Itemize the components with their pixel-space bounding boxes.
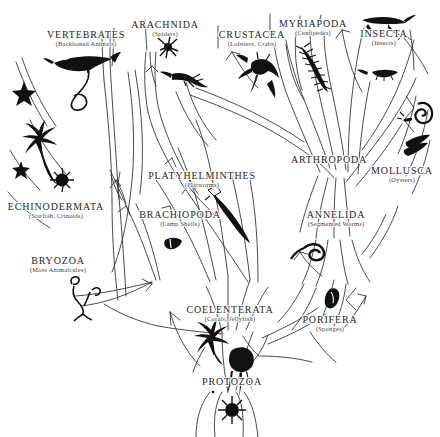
taxon-name-crustacea: CRUSTACEA [219,30,285,40]
taxon-label-brachiopoda[interactable]: BRACHIOPODA (Lamp Shells) [139,210,221,227]
bryozoan-icon [71,277,100,321]
scorpion-icon [160,72,208,88]
taxon-name-platyhelminthes: PLATYHELMINTHES [148,171,256,181]
taxon-name-bryozoa: BRYOZOA [30,256,86,266]
taxon-common-echinodermata: (Starfish, Crinoids) [8,213,104,219]
taxon-common-platyhelminthes: (Flatworms) [148,182,256,188]
taxon-common-insecta: (Insects) [360,40,407,46]
centipede-icon [296,43,331,92]
sea-urchin-icon [50,168,74,192]
protozoan-dot-icon [212,391,215,394]
taxon-common-annelida: (Segmented Worms) [307,221,365,227]
taxon-common-mollusca: (Oysters) [371,177,433,183]
taxon-label-arthropoda[interactable]: ARTHROPODA [291,155,367,166]
taxon-common-brachiopoda: (Lamp Shells) [139,221,221,227]
taxon-name-annelida: ANNELIDA [307,210,365,220]
taxon-label-echinodermata[interactable]: ECHINODERMATA (Starfish, Crinoids) [8,202,104,219]
taxon-label-crustacea[interactable]: CRUSTACEA (Lobsters, Crabs) [219,30,285,47]
taxon-common-myriapoda: (Centipedes) [279,30,347,36]
taxon-name-porifera: PORIFERA [302,315,357,325]
taxon-name-myriapoda: MYRIAPODA [279,19,347,29]
branch-root-right [244,392,258,437]
taxon-label-vertebrates[interactable]: VERTEBRATES (Backboned Animals) [47,30,125,47]
taxon-common-vertebrates: (Backboned Animals) [47,41,125,47]
taxon-name-arachnida: ARACHNIDA [131,20,199,30]
taxon-label-porifera[interactable]: PORIFERA (Sponges) [302,315,357,332]
sponge-icon [325,288,340,308]
branch-root-left [196,392,210,437]
branch-bryozoa [76,282,152,296]
taxon-name-protozoa: PROTOZOA [202,377,262,387]
fish-icon [43,52,121,71]
taxon-label-insecta[interactable]: INSECTA (Insects) [360,29,407,46]
ant-icon [357,70,398,81]
bivalve-icon [404,135,430,156]
branch-vertebrates [112,200,118,300]
taxon-name-arthropoda: ARTHROPODA [291,155,367,165]
taxon-common-crustacea: (Lobsters, Crabs) [219,41,285,47]
taxon-label-mollusca[interactable]: MOLLUSCA (Oysters) [371,166,433,183]
taxon-common-coelenterata: (Corals, Jellyfish) [186,316,273,322]
taxon-label-bryozoa[interactable]: BRYOZOA (Moss Animalcules) [30,256,86,273]
lamp-shell-icon [164,238,182,249]
taxon-label-arachnida[interactable]: ARACHNIDA (Spiders) [131,20,199,37]
taxon-label-annelida[interactable]: ANNELIDA (Segmented Worms) [307,210,365,227]
taxon-label-platyhelminthes[interactable]: PLATYHELMINTHES (Flatworms) [148,171,256,188]
taxon-common-arachnida: (Spiders) [131,31,199,37]
taxon-label-myriapoda[interactable]: MYRIAPODA (Centipedes) [279,19,347,36]
branch-arachnida [148,112,248,282]
taxon-name-echinodermata: ECHINODERMATA [8,202,104,212]
lobster-icon [236,52,279,98]
taxon-name-brachiopoda: BRACHIOPODA [139,210,221,220]
branch-insecta [348,28,364,172]
taxon-common-bryozoa: (Moss Animalcules) [30,267,86,273]
spider-icon [158,36,178,58]
branch-arthropoda-stem [316,178,328,238]
taxon-name-mollusca: MOLLUSCA [371,166,433,176]
coral-icon [194,319,229,365]
taxon-name-vertebrates: VERTEBRATES [47,30,125,40]
taxon-label-coelenterata[interactable]: COELENTERATA (Corals, Jellyfish) [186,305,273,322]
snail-icon [397,103,432,123]
taxon-label-protozoa[interactable]: PROTOZOA [202,377,262,388]
taxon-common-porifera: (Sponges) [302,326,357,332]
protozoan-icon [218,396,246,424]
taxon-name-insecta: INSECTA [360,29,407,39]
phylogenetic-tree-figure: VERTEBRATES (Backboned Animals) ARACHNID… [0,0,440,437]
taxon-name-coelenterata: COELENTERATA [186,305,273,315]
